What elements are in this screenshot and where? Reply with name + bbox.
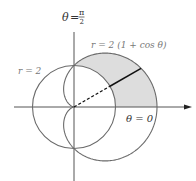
denominator: 2 [80, 18, 84, 26]
theta-pi-over-2-label: θ = π 2 [62, 8, 85, 26]
circle-label: r = 2 [18, 66, 42, 76]
theta-symbol: θ [62, 11, 69, 24]
cardioid-label: r = 2 (1 + cos θ) [91, 40, 167, 50]
polar-diagram: θ = π 2 r = 2 (1 + cos θ) r = 2 θ = 0 [0, 0, 196, 181]
shaded-region [74, 53, 157, 107]
dashed-radial-segment [74, 86, 110, 107]
pi-numerator: π [79, 8, 84, 17]
theta-zero-label: θ = 0 [126, 113, 154, 124]
axis-arrow-icon [184, 105, 192, 110]
equals-sign: = [70, 11, 79, 24]
